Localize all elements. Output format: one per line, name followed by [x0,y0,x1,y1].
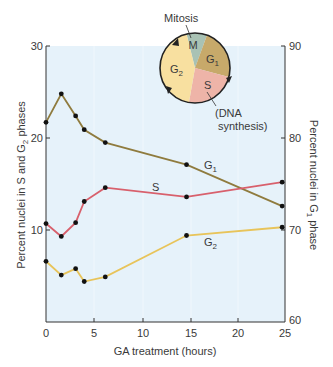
data-point [184,162,189,167]
data-point [73,114,78,119]
data-point [73,220,78,225]
data-point [82,199,87,204]
data-point [44,120,49,125]
svg-text:5: 5 [91,327,97,339]
chart: 0 5 10 15 20 25 10 20 30 60 70 80 90 GA … [0,0,333,367]
data-point [184,194,189,199]
svg-text:30: 30 [31,40,43,52]
data-point [184,233,189,238]
data-point [280,180,285,185]
data-point [82,127,87,132]
data-point [44,221,49,226]
left-tick-labels: 10 20 30 [31,40,43,236]
svg-text:10: 10 [31,224,43,236]
data-point [280,225,285,230]
data-point [103,185,108,190]
svg-text:synthesis): synthesis) [218,120,268,132]
svg-text:0: 0 [43,327,49,339]
data-point [280,204,285,209]
right-axis-title: Percent nuclei in G1 phase [305,120,320,250]
data-point [59,234,64,239]
svg-text:70: 70 [289,224,301,236]
data-point [73,266,78,271]
dna-synthesis-callout: (DNA [215,107,243,119]
mitosis-callout: Mitosis [164,12,199,24]
right-tick-labels: 60 70 80 90 [289,40,301,326]
left-axis-title: Percent nuclei in S and G2 phases [15,101,30,269]
data-point [103,275,108,280]
svg-text:60: 60 [289,314,301,326]
svg-text:20: 20 [31,132,43,144]
data-point [44,259,49,264]
data-point [82,279,87,284]
data-point [103,140,108,145]
data-point [59,273,64,278]
svg-text:20: 20 [232,327,244,339]
svg-text:90: 90 [289,40,301,52]
svg-text:25: 25 [279,327,291,339]
x-axis-title: GA treatment (hours) [114,345,217,357]
x-tick-labels: 0 5 10 15 20 25 [43,327,291,339]
svg-text:80: 80 [289,132,301,144]
data-point [59,91,64,96]
svg-text:S: S [204,79,211,91]
svg-text:10: 10 [137,327,149,339]
series-label-s: S [152,181,159,193]
svg-text:15: 15 [185,327,197,339]
svg-text:M: M [188,39,197,51]
